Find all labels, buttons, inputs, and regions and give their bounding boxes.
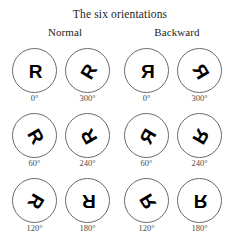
degree-label: 120° [8,223,61,234]
orientation-circle: R [177,113,222,158]
group-header-normal: Normal [12,26,118,39]
degree-label: 300° [173,93,226,104]
glyph-letter: R [141,62,155,81]
orientation-cell: R 60° [120,111,176,176]
degree-label: 60° [120,158,173,169]
orientation-circle: R [124,178,169,223]
glyph-letter: R [24,126,47,147]
orientation-cell: R 300° [173,46,229,111]
glyph-letter: R [136,191,159,212]
orientation-circle: R [124,48,169,93]
orientation-cell: R 60° [8,111,64,176]
group-header-backward: Backward [124,26,230,39]
letter-glyph: R [13,114,58,159]
orientation-circle: R [65,113,110,158]
letter-glyph: R [13,179,58,224]
orientation-cell: R 120° [8,176,64,241]
orientation-circle: R [65,48,110,93]
letter-glyph: R [125,179,170,224]
orientation-grid: R 0° R 300° R 60° [0,46,240,241]
glyph-letter: R [24,191,47,212]
orientation-circle: R [12,178,57,223]
orientations-figure: The six orientations Normal Backward R 0… [0,0,240,245]
glyph-letter: R [82,192,96,211]
letter-glyph: R [178,49,223,94]
orientation-circle: R [12,113,57,158]
glyph-letter: R [77,61,100,82]
orientation-cell: R 0° [8,46,64,111]
degree-label: 240° [61,158,114,169]
orientation-cell: R 180° [173,176,229,241]
orientation-circle: R [65,178,110,223]
orientation-group-normal: R 0° R 300° R 60° [8,46,120,241]
orientation-cell: R 300° [61,46,117,111]
figure-title: The six orientations [0,8,240,21]
letter-glyph: R [178,114,223,159]
orientation-cell: R 240° [173,111,229,176]
letter-glyph: R [66,114,111,159]
degree-label: 300° [61,93,114,104]
degree-label: 180° [61,223,114,234]
degree-label: 240° [173,158,226,169]
orientation-circle: R [12,48,57,93]
orientation-circle: R [177,48,222,93]
letter-glyph: R [66,179,111,224]
degree-label: 0° [120,93,173,104]
degree-label: 60° [8,158,61,169]
orientation-circle: R [124,113,169,158]
degree-label: 120° [120,223,173,234]
letter-glyph: R [125,49,170,94]
degree-label: 180° [173,223,226,234]
orientation-circle: R [177,178,222,223]
letter-glyph: R [66,49,111,94]
letter-glyph: R [178,179,223,224]
glyph-letter: R [77,126,100,147]
glyph-letter: R [189,61,212,82]
orientation-cell: R 180° [61,176,117,241]
glyph-letter: R [136,126,159,147]
orientation-cell: R 240° [61,111,117,176]
letter-glyph: R [13,49,58,94]
letter-glyph: R [125,114,170,159]
degree-label: 0° [8,93,61,104]
glyph-letter: R [194,192,208,211]
glyph-letter: R [189,126,212,147]
orientation-cell: R 0° [120,46,176,111]
orientation-group-backward: R 0° R 300° R 60° [120,46,232,241]
orientation-cell: R 120° [120,176,176,241]
glyph-letter: R [29,62,43,81]
